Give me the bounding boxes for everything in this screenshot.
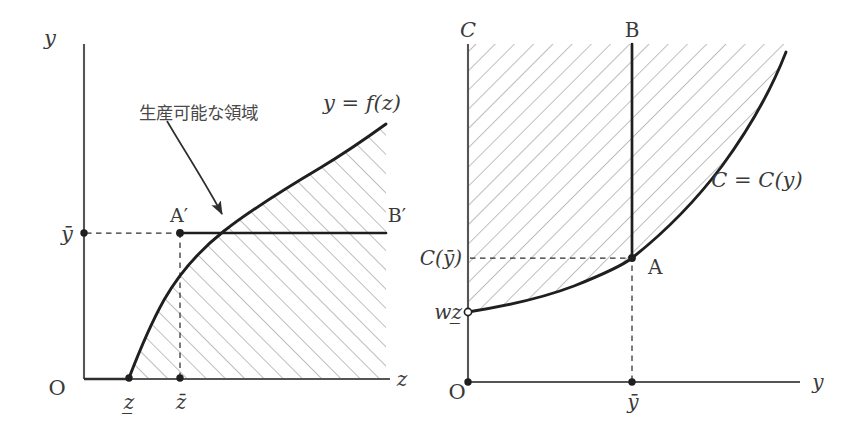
right-cybar-tick-label: C(ȳ) [420,246,462,270]
left-panel: y z O y = f(z) 生産可能な領域 A′ B′ ȳ z̲ z̄ [43,26,408,414]
left-y-axis-label: y [43,26,57,50]
right-point-b-label: B [625,18,640,42]
left-origin-label: O [48,376,65,400]
left-point-b-prime-label: B′ [388,204,406,226]
right-ybar-tick-label: ȳ [626,390,639,414]
right-curve-label: C = C(y) [711,168,802,192]
figure-svg: y z O y = f(z) 生産可能な領域 A′ B′ ȳ z̲ z̄ [0,0,847,439]
left-x-axis-label: z [396,367,408,391]
left-shaded-region [129,124,386,378]
left-curve-label: y = f(z) [322,91,401,115]
point-a [628,254,636,262]
right-origin-label: O [448,380,465,404]
right-point-a-label: A [647,255,663,279]
left-region-annotation: 生産可能な領域 [139,103,258,123]
point-ybar-on-axis [80,229,87,236]
point-ybar-on-x-axis [628,378,635,385]
left-point-a-prime-label: A′ [169,204,188,226]
figure-root: y z O y = f(z) 生産可能な領域 A′ B′ ȳ z̲ z̄ [0,0,847,439]
point-a-prime [176,229,184,237]
point-wz-open-circle [464,308,471,315]
left-z-under-tick-label: z̲ [122,390,135,414]
left-z-bar-tick-label: z̄ [175,390,187,414]
left-ybar-tick-label: ȳ [60,222,74,246]
point-z-bar [176,374,183,381]
right-panel: C B C = C(y) A C(ȳ) wz̲ O ȳ y [420,18,825,414]
right-top-c-label: C [460,18,476,42]
point-z-under [125,374,132,381]
annotation-arrow [167,121,222,214]
production-region-hatch [129,124,386,378]
right-wz-tick-label: wz̲ [434,300,462,324]
right-x-axis-label: y [811,370,824,394]
